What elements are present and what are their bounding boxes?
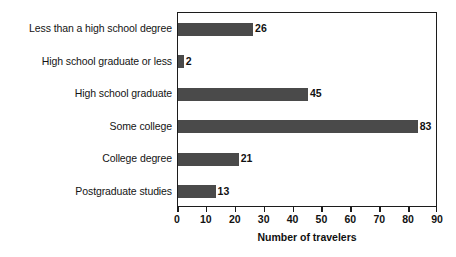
bar-value-label: 21 (241, 152, 253, 164)
x-tick-label: 0 (174, 213, 180, 226)
x-axis-title: Number of travelers (177, 231, 437, 244)
bar (178, 23, 253, 36)
bar (178, 120, 418, 133)
x-tick (436, 207, 438, 212)
bar (178, 153, 239, 166)
bar (178, 88, 308, 101)
category-label: Some college (0, 120, 172, 132)
x-tick-label: 80 (402, 213, 414, 226)
x-tick (206, 207, 208, 212)
category-axis: Less than a high school degreeHigh schoo… (0, 12, 172, 207)
category-label: Less than a high school degree (0, 22, 172, 34)
x-tick (321, 207, 323, 212)
x-tick (408, 207, 410, 212)
category-label: High school graduate or less (0, 55, 172, 67)
x-tick-label: 90 (431, 213, 443, 226)
x-axis-tick-labels: 0102030405060708090 (177, 213, 437, 227)
bar-value-label: 13 (218, 185, 230, 197)
x-tick-label: 10 (200, 213, 212, 226)
category-label: High school graduate (0, 87, 172, 99)
bar-value-label: 45 (310, 87, 322, 99)
x-tick-label: 30 (258, 213, 270, 226)
x-tick (177, 207, 179, 212)
x-tick (235, 207, 237, 212)
category-label: Postgraduate studies (0, 185, 172, 197)
bar (178, 185, 216, 198)
x-tick-label: 60 (344, 213, 356, 226)
x-tick-label: 50 (316, 213, 328, 226)
x-tick-label: 20 (229, 213, 241, 226)
x-tick-label: 40 (287, 213, 299, 226)
x-tick (264, 207, 266, 212)
category-label: College degree (0, 152, 172, 164)
x-tick (379, 207, 381, 212)
bar-value-label: 26 (255, 22, 267, 34)
bar-value-label: 2 (186, 55, 192, 67)
x-tick (293, 207, 295, 212)
bar-value-label: 83 (420, 120, 432, 132)
bars-layer (178, 13, 436, 206)
x-tick (350, 207, 352, 212)
bar-chart: Less than a high school degreeHigh schoo… (0, 0, 456, 257)
x-tick-label: 70 (373, 213, 385, 226)
bar (178, 55, 184, 68)
plot-area (177, 12, 437, 207)
